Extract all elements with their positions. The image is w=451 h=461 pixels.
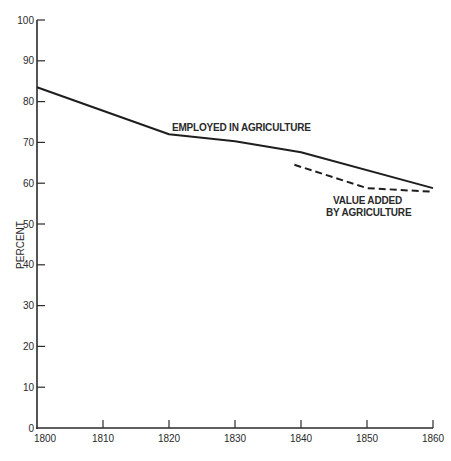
x-tick-label: 1840 xyxy=(290,433,313,444)
axes: 0102030405060708090100180018101820183018… xyxy=(17,15,444,445)
y-tick-label: 60 xyxy=(23,178,35,189)
y-tick-label: 90 xyxy=(23,55,35,66)
x-tick-label: 1850 xyxy=(356,433,379,444)
employed-annotation: EMPLOYED IN AGRICULTURE xyxy=(172,122,311,133)
x-tick-label: 1860 xyxy=(422,433,445,444)
value-added-annotation-line1: VALUE ADDED xyxy=(333,195,402,206)
line-chart: 0102030405060708090100180018101820183018… xyxy=(0,0,451,461)
x-tick-label: 1800 xyxy=(34,433,57,444)
x-tick-label: 1820 xyxy=(158,433,181,444)
y-tick-label: 20 xyxy=(23,341,35,352)
value-added-annotation-line2: BY AGRICULTURE xyxy=(326,207,412,218)
y-tick-label: 0 xyxy=(28,423,34,434)
employed-line xyxy=(37,87,433,188)
series-lines xyxy=(37,87,433,192)
y-tick-label: 70 xyxy=(23,137,35,148)
y-axis-label: PERCENT xyxy=(15,221,26,269)
y-tick-label: 100 xyxy=(17,15,34,26)
x-tick-label: 1830 xyxy=(224,433,247,444)
x-tick-label: 1810 xyxy=(92,433,115,444)
y-tick-label: 10 xyxy=(23,382,35,393)
y-tick-label: 80 xyxy=(23,96,35,107)
y-tick-label: 30 xyxy=(23,300,35,311)
